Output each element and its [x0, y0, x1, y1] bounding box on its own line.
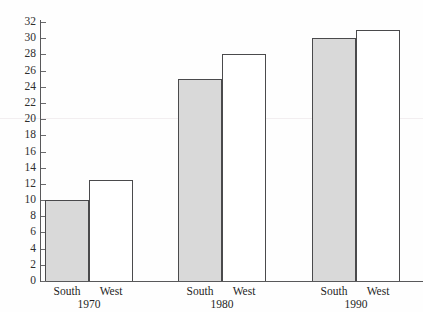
y-tick-label: 24	[6, 81, 36, 93]
group-label-1990: 1990	[312, 298, 400, 311]
y-tick-label: 8	[6, 210, 36, 222]
y-tick-mark	[41, 103, 46, 104]
y-tick-label: 20	[6, 113, 36, 125]
y-tick-label: 32	[6, 16, 36, 28]
bar-1970-west	[89, 180, 133, 281]
y-tick-label-wrap: 16	[0, 146, 36, 158]
series-label-west: West	[89, 285, 133, 298]
series-label-west: West	[356, 285, 400, 298]
y-tick-label-wrap: 6	[0, 226, 36, 238]
y-tick-label-wrap: 32	[0, 16, 36, 28]
group-label-1980: 1980	[178, 298, 266, 311]
bar-1980-west	[222, 54, 266, 281]
y-tick-mark	[41, 281, 46, 282]
y-tick-label: 26	[6, 65, 36, 77]
y-tick-label: 16	[6, 146, 36, 158]
y-tick-label-wrap: 18	[0, 129, 36, 141]
y-tick-label-wrap: 22	[0, 97, 36, 109]
series-label-west: West	[222, 285, 266, 298]
x-axis-line	[40, 281, 423, 282]
y-tick-label: 10	[6, 194, 36, 206]
y-tick-mark	[41, 184, 46, 185]
y-tick-label-wrap: 30	[0, 32, 36, 44]
y-tick-label: 4	[6, 243, 36, 255]
y-tick-label: 28	[6, 48, 36, 60]
series-label-south: South	[45, 285, 89, 298]
y-tick-label-wrap: 28	[0, 48, 36, 60]
y-tick-mark	[41, 22, 46, 23]
y-tick-label: 12	[6, 178, 36, 190]
bar-1990-west	[356, 30, 400, 281]
y-tick-label-wrap: 20	[0, 113, 36, 125]
y-tick-label: 6	[6, 226, 36, 238]
y-tick-mark	[41, 87, 46, 88]
bar-chart: 02468101214161820222426283032 SouthWest1…	[0, 0, 423, 312]
y-tick-label-wrap: 14	[0, 162, 36, 174]
y-tick-label-wrap: 10	[0, 194, 36, 206]
y-tick-mark	[41, 38, 46, 39]
y-tick-label: 18	[6, 129, 36, 141]
y-tick-label: 30	[6, 32, 36, 44]
y-tick-label: 2	[6, 259, 36, 271]
series-label-south: South	[312, 285, 356, 298]
group-label-1970: 1970	[45, 298, 133, 311]
y-tick-label-wrap: 26	[0, 65, 36, 77]
bar-1970-south	[45, 200, 89, 281]
series-label-south: South	[178, 285, 222, 298]
y-tick-mark	[41, 119, 46, 120]
bar-1990-south	[312, 38, 356, 281]
bar-1980-south	[178, 79, 222, 281]
y-tick-label-wrap: 0	[0, 275, 36, 287]
y-tick-label: 0	[6, 275, 36, 287]
y-tick-label: 22	[6, 97, 36, 109]
y-tick-mark	[41, 71, 46, 72]
y-tick-label-wrap: 24	[0, 81, 36, 93]
y-tick-label-wrap: 8	[0, 210, 36, 222]
y-tick-mark	[41, 54, 46, 55]
y-tick-label-wrap: 4	[0, 243, 36, 255]
y-tick-label: 14	[6, 162, 36, 174]
y-tick-label-wrap: 12	[0, 178, 36, 190]
y-tick-mark	[41, 152, 46, 153]
y-tick-mark	[41, 135, 46, 136]
y-tick-mark	[41, 168, 46, 169]
y-tick-label-wrap: 2	[0, 259, 36, 271]
